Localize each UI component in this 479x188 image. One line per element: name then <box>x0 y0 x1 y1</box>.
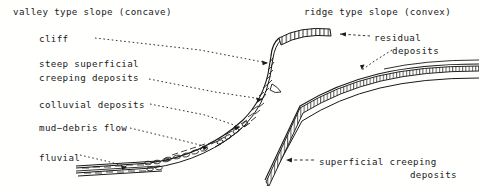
residual-deposits-band <box>279 28 331 45</box>
slope-break-notch <box>270 84 281 93</box>
slope-deposits-cross-section-figure: valley type slope (concave) ridge type s… <box>0 0 479 188</box>
mud-debris-flow-band <box>164 141 214 161</box>
leader-steep-superficial <box>149 79 262 99</box>
leader-residual-lower <box>362 50 392 70</box>
leader-arrowheads <box>121 32 365 170</box>
label-colluvial-deposits: colluvial deposits <box>39 98 145 112</box>
label-steep-line2: creeping deposits <box>39 72 139 83</box>
leader-mud-debris <box>130 128 208 147</box>
label-residual-deposits-line2: deposits <box>392 44 439 58</box>
heading-ridge-type-slope: ridge type slope (convex) <box>304 5 451 19</box>
label-steep-superficial-creeping-deposits: steep superficial creeping deposits <box>39 57 139 84</box>
label-mud-debris-flow: mud−debris flow <box>39 121 127 135</box>
label-cliff: cliff <box>39 32 68 46</box>
label-superficial-creeping-deposits-line1: superficial creeping <box>319 155 437 169</box>
label-residual-deposits-line1: residual <box>374 31 421 45</box>
colluvial-deposits-band <box>211 120 250 147</box>
leader-colluvial <box>150 104 240 127</box>
label-steep-line1: steep superficial <box>39 58 139 69</box>
label-fluvial: fluvial <box>39 151 80 165</box>
label-superficial-creeping-deposits-line2: deposits <box>319 168 457 182</box>
heading-valley-type-slope: valley type slope (concave) <box>13 5 172 19</box>
